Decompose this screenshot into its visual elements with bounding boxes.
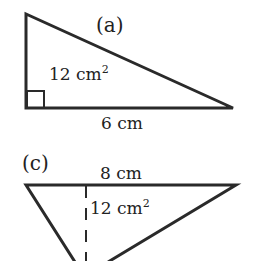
triangle-c	[26, 185, 236, 261]
area-text: 12 cm	[49, 64, 102, 84]
triangle-a	[26, 14, 233, 108]
right-angle-marker	[27, 91, 44, 108]
figure-a-base: 6 cm	[101, 115, 143, 132]
diagram: (a) 12 cm2 6 cm (c) 8 cm 12 cm2	[0, 0, 266, 261]
area-exponent: 2	[102, 63, 109, 76]
figure-c-area: 12 cm2	[90, 200, 150, 217]
figure-c-base: 8 cm	[100, 165, 142, 182]
figure-a-label: (a)	[96, 15, 124, 35]
figure-c-label: (c)	[22, 153, 49, 173]
area-text: 12 cm	[90, 198, 143, 218]
area-exponent: 2	[143, 197, 150, 210]
figure-a-area: 12 cm2	[49, 66, 109, 83]
